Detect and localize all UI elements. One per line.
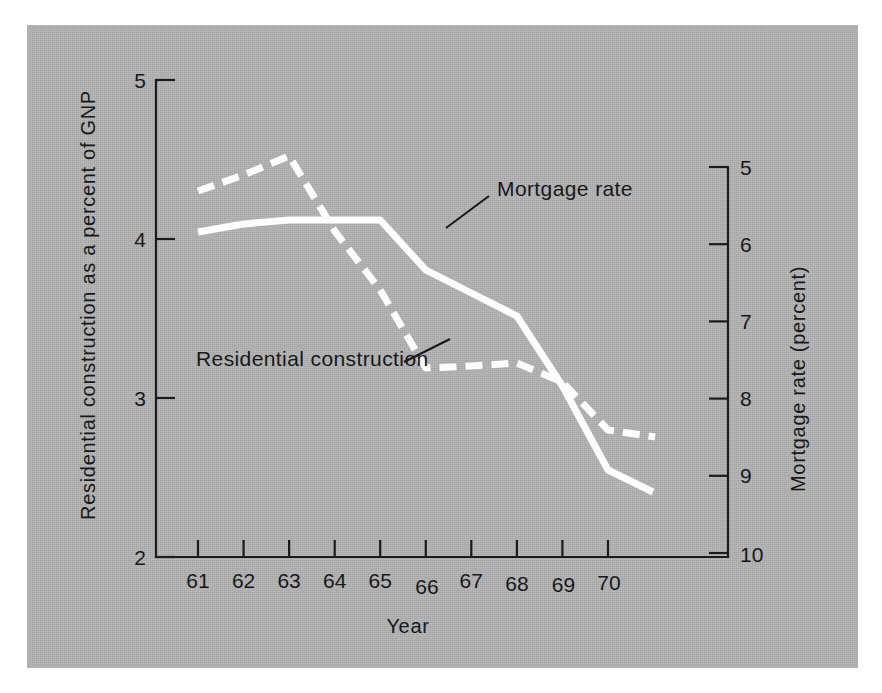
right-axis-ticklabel-10: 10: [740, 543, 763, 566]
annotation-leader-mortgage-rate: [446, 196, 489, 228]
x-axis-ticklabel-69: 69: [552, 573, 575, 596]
x-axis-ticklabel-64: 64: [323, 569, 347, 592]
x-axis-ticklabel-61: 61: [186, 569, 209, 592]
x-axis-ticklabel-68: 68: [505, 572, 528, 595]
x-axis-ticklabel-70: 70: [597, 571, 620, 594]
right-axis-ticklabel-7: 7: [740, 310, 752, 333]
left-axis-group: 5 4 3 2 Residential construction as a pe…: [77, 69, 175, 569]
annotation-mortgage-rate: Mortgage rate: [446, 177, 633, 228]
figure-container: 5 4 3 2 Residential construction as a pe…: [0, 0, 882, 693]
x-axis-title: Year: [386, 615, 429, 637]
right-axis-ticklabel-8: 8: [740, 387, 752, 410]
annotation-label-residential-construction: Residential construction: [196, 347, 429, 370]
x-axis-ticklabel-63: 63: [277, 569, 300, 592]
chart-plot-area: 5 4 3 2 Residential construction as a pe…: [0, 0, 882, 693]
right-axis-title: Mortgage rate (percent): [787, 266, 809, 492]
left-axis-title: Residential construction as a percent of…: [77, 90, 99, 520]
left-axis-ticklabel-4: 4: [134, 228, 146, 251]
left-axis-ticklabel-3: 3: [134, 387, 146, 410]
right-axis-ticklabel-5: 5: [740, 156, 752, 179]
x-axis-ticklabel-65: 65: [369, 569, 392, 592]
annotation-label-mortgage-rate: Mortgage rate: [497, 177, 633, 200]
x-axis-ticklabel-67: 67: [460, 569, 483, 592]
x-axis-ticklabel-66: 66: [415, 575, 438, 598]
left-axis-ticklabel-5: 5: [134, 69, 146, 92]
left-axis-ticklabel-2: 2: [134, 546, 146, 569]
right-axis-ticklabel-6: 6: [740, 233, 752, 256]
x-axis-group: 61 62 63 64 65 66 67 68 69 70 Year: [156, 540, 728, 637]
right-axis-group: 5 6 7 8 9 10 Mortgage rate (percent): [709, 156, 809, 566]
right-axis-ticklabel-9: 9: [740, 464, 752, 487]
x-axis-ticklabel-62: 62: [232, 569, 255, 592]
